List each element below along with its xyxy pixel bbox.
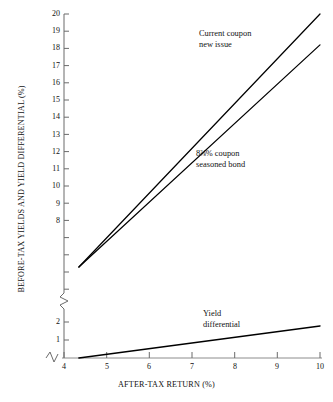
y-axis-break-icon <box>60 293 68 309</box>
y-tick-label-13: 13 <box>40 130 60 139</box>
y-tick-label-9: 9 <box>40 199 60 208</box>
x-axis-title: AFTER-TAX RETURN (%) <box>0 380 333 389</box>
y-axis-title: BEFORE-TAX YIELDS AND YIELD DIFFERENTIAL… <box>17 93 26 293</box>
y-tick-label-8: 8 <box>40 216 60 225</box>
x-tick-label-7: 7 <box>182 362 202 371</box>
x-tick-label-8: 8 <box>225 362 245 371</box>
series-line-yield-differential <box>79 326 320 358</box>
y-tick-label-18: 18 <box>40 43 60 52</box>
x-tick-label-6: 6 <box>139 362 159 371</box>
y-tick-label-16: 16 <box>40 78 60 87</box>
y-axis-ticks-upper <box>64 14 69 289</box>
x-tick-label-10: 10 <box>310 362 330 371</box>
series-annotation-yield-differential-line2: differential <box>203 320 240 331</box>
series-annotation-current-coupon-line1: Current coupon <box>199 29 251 40</box>
series-annotation-current-coupon-line2: new issue <box>199 40 251 51</box>
x-tick-label-4: 4 <box>54 362 74 371</box>
series-annotation-seasoned-bond-line1: 8⅜% coupon <box>196 149 245 160</box>
chart-figure: 20 19 18 17 16 15 14 13 12 11 10 9 8 2 1… <box>0 0 333 402</box>
x-axis-break-icon <box>46 352 58 362</box>
series-annotation-seasoned-bond: 8⅜% coupon seasoned bond <box>196 149 245 170</box>
y-tick-label-1: 1 <box>40 335 60 344</box>
y-tick-label-19: 19 <box>40 26 60 35</box>
x-tick-label-9: 9 <box>267 362 287 371</box>
series-annotation-yield-differential-line1: Yield <box>203 309 240 320</box>
series-annotation-seasoned-bond-line2: seasoned bond <box>196 160 245 171</box>
y-tick-label-15: 15 <box>40 95 60 104</box>
y-tick-label-14: 14 <box>40 112 60 121</box>
x-tick-label-5: 5 <box>97 362 117 371</box>
y-tick-label-11: 11 <box>40 164 60 173</box>
y-tick-label-2: 2 <box>40 317 60 326</box>
series-line-current-coupon-new-issue <box>79 14 320 267</box>
series-annotation-current-coupon: Current coupon new issue <box>199 29 251 50</box>
y-axis-ticks-lower <box>64 322 69 340</box>
y-tick-label-20: 20 <box>40 9 60 18</box>
y-tick-label-17: 17 <box>40 61 60 70</box>
coupon-rate-suffix: % coupon <box>206 149 240 158</box>
series-annotation-yield-differential: Yield differential <box>203 309 240 330</box>
y-tick-label-12: 12 <box>40 147 60 156</box>
y-tick-label-10: 10 <box>40 181 60 190</box>
